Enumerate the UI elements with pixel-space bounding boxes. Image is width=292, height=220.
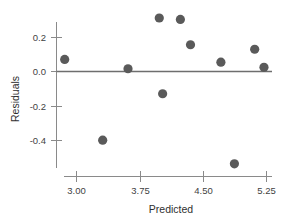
x-tick-label-0: 3.00 [67,185,86,196]
data-point [123,64,132,73]
y-axis-title: Residuals [9,76,21,122]
x-tick-label-1: 3.75 [131,185,150,196]
x-tick-label-2: 4.50 [194,185,213,196]
x-axis-title: Predicted [149,203,194,215]
data-point [250,45,259,54]
residual-plot: 0.2 0.0 -0.2 -0.4 3.00 3.75 4.50 5.25 Pr… [0,0,292,220]
data-point [176,15,185,24]
data-point [230,159,239,168]
data-point [98,136,107,145]
y-tick-label-2: -0.2 [30,101,46,112]
data-points-group [60,13,268,168]
y-tick-label-3: -0.4 [30,135,46,146]
data-point [155,13,164,22]
scatter-plot-canvas: 0.2 0.0 -0.2 -0.4 3.00 3.75 4.50 5.25 Pr… [0,0,292,220]
data-point [216,58,225,67]
data-point [158,89,167,98]
y-tick-label-0: 0.2 [33,32,46,43]
x-tick-label-3: 5.25 [257,185,276,196]
data-point [186,40,195,49]
data-point [60,55,69,64]
data-point [259,63,268,72]
y-tick-label-1: 0.0 [33,66,46,77]
